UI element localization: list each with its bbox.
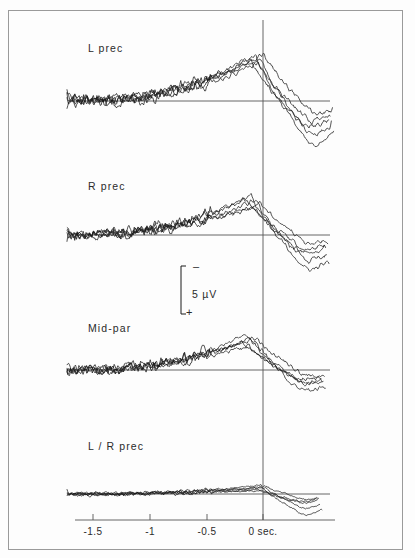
tick-label-minus-1-5: -1.5 — [84, 526, 103, 537]
tick-label-minus-0-5: -0.5 — [198, 526, 217, 537]
panel-label-mid-par: Mid-par — [88, 322, 131, 334]
waveform-trace-ch2-4 — [67, 344, 321, 383]
waveform-trace-ch2-1 — [67, 338, 324, 386]
time-axis-group — [75, 514, 335, 520]
erp-waveform-plot — [0, 0, 415, 558]
waveform-trace-ch3-0 — [67, 485, 322, 516]
calibration-positive-sign: + — [186, 306, 192, 318]
tick-label-zero-sec: 0 sec. — [248, 526, 277, 537]
calibration-value-label: 5 µV — [192, 288, 217, 300]
waveform-trace-ch1-1 — [67, 200, 327, 264]
panel-label-r-prec: R prec — [88, 180, 126, 192]
waveform-trace-ch1-2 — [67, 198, 326, 253]
tick-label-minus-1: -1 — [145, 526, 155, 537]
waveform-trace-ch0-2 — [67, 59, 329, 128]
calibration-negative-sign: – — [193, 260, 199, 272]
panel-label-l-r-prec: L / R prec — [88, 440, 144, 452]
panel-label-l-prec: L prec — [88, 42, 123, 54]
waveform-trace-ch0-1 — [67, 59, 331, 136]
